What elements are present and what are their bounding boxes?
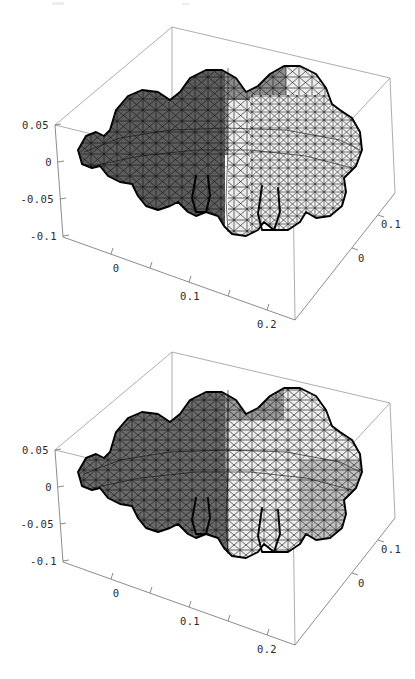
y-axis-lower: 0 0.1 xyxy=(352,540,401,589)
x-axis-lower: 0 0.1 0.2 xyxy=(111,573,277,655)
x-tick-label-2: 0.2 xyxy=(257,643,277,655)
lower-plot-svg: 0.05 0 -0.05 -0.1 0 0.1 0.2 0 0.1 xyxy=(0,340,415,679)
z-tick-label-3: -0.1 xyxy=(30,555,57,567)
x-tick-label-2: 0.2 xyxy=(257,318,277,330)
y-tick-label-1: 0.1 xyxy=(381,218,401,230)
y-tick-label-0: 0 xyxy=(358,252,365,264)
z-tick-label-0: 0.05 xyxy=(22,119,49,131)
z-tick-label-1: 0 xyxy=(45,156,52,168)
x-tick-label-0: 0 xyxy=(113,587,120,599)
z-tick-label-1: 0 xyxy=(45,481,52,493)
plot-panel-upper: 0.05 0 -0.05 -0.1 0 0.1 0.2 0 0.1 xyxy=(0,0,415,339)
z-tick-label-2: -0.05 xyxy=(20,193,54,205)
scan-artifacts-upper xyxy=(52,2,189,5)
y-tick-label-1: 0.1 xyxy=(381,543,401,555)
x-tick-label-1: 0.1 xyxy=(180,615,200,627)
x-axis-upper: 0 0.1 0.2 xyxy=(111,248,277,330)
y-tick-label-0: 0 xyxy=(358,577,365,589)
z-tick-label-2: -0.05 xyxy=(20,518,54,530)
figure-page: 0.05 0 -0.05 -0.1 0 0.1 0.2 0 0.1 xyxy=(0,0,415,679)
z-tick-label-3: -0.1 xyxy=(30,230,57,242)
x-tick-label-1: 0.1 xyxy=(180,290,200,302)
y-axis-upper: 0 0.1 xyxy=(352,215,401,264)
x-tick-label-0: 0 xyxy=(113,262,120,274)
upper-plot-svg: 0.05 0 -0.05 -0.1 0 0.1 0.2 0 0.1 xyxy=(0,0,415,339)
mesh-surface-upper xyxy=(60,55,370,250)
z-tick-label-0: 0.05 xyxy=(22,444,49,456)
plot-panel-lower: 0.05 0 -0.05 -0.1 0 0.1 0.2 0 0.1 xyxy=(0,340,415,679)
